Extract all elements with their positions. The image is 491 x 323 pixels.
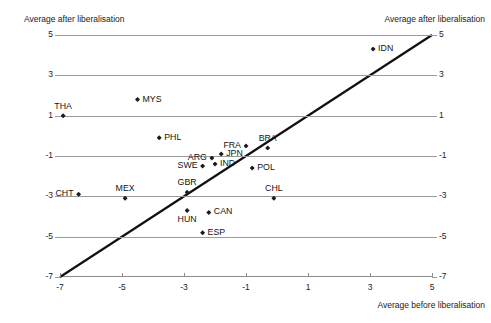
y-axis-tick-label-left: -7 xyxy=(45,272,53,281)
y-axis-tick-label-left: -5 xyxy=(45,232,53,241)
diamond-marker-icon xyxy=(200,164,205,169)
data-point-label: THA xyxy=(54,101,72,111)
y-tick-right xyxy=(432,75,437,76)
data-point-label: IDN xyxy=(378,43,393,53)
plot-area: 553311-1-1-3-3-5-5-7-7-7-5-3-1135IDNMYST… xyxy=(60,35,432,277)
x-axis-tick-label: -3 xyxy=(180,283,188,292)
gridline-y xyxy=(60,116,432,117)
y-tick-right xyxy=(432,237,437,238)
y-axis-tick-label-left: 5 xyxy=(48,30,53,39)
data-point-label: BRA xyxy=(259,133,277,143)
diamond-marker-icon xyxy=(157,135,162,140)
data-point-label: SWE xyxy=(178,160,198,170)
x-tick xyxy=(370,273,371,277)
diamond-marker-icon xyxy=(244,143,249,148)
y-tick-right xyxy=(432,116,437,117)
y-tick-left xyxy=(55,277,60,278)
y-axis-tick-label-left: -1 xyxy=(45,151,53,160)
y-tick-right xyxy=(432,277,437,278)
y-axis-tick-label-right: -7 xyxy=(439,272,447,281)
scatter-chart: Average after liberalisation Average aft… xyxy=(0,0,491,323)
data-point-label: CHL xyxy=(265,183,283,193)
y-axis-tick-label-left: 1 xyxy=(48,111,53,120)
y-axis-title-left: Average after liberalisation xyxy=(24,14,125,24)
y-axis-title-right: Average after liberalisation xyxy=(385,14,486,24)
x-tick xyxy=(60,273,61,277)
data-point-label: IND xyxy=(220,158,235,168)
x-axis-tick-label: 3 xyxy=(368,283,373,292)
diamond-marker-icon xyxy=(135,97,140,102)
gridline-y xyxy=(60,75,432,76)
diamond-marker-icon xyxy=(185,190,190,195)
y-axis-tick-label-left: 3 xyxy=(48,70,53,79)
y-axis-tick-label-right: -1 xyxy=(439,151,447,160)
y-tick-left xyxy=(55,116,60,117)
diamond-marker-icon xyxy=(265,145,270,150)
x-tick xyxy=(184,273,185,277)
y-axis-tick-label-right: 5 xyxy=(439,30,444,39)
y-tick-left xyxy=(55,156,60,157)
y-axis-tick-label-right: -5 xyxy=(439,232,447,241)
gridline-y xyxy=(60,35,432,36)
diamond-marker-icon xyxy=(61,113,66,118)
data-point-label: ESP xyxy=(208,227,226,237)
data-point-label: CAN xyxy=(214,206,233,216)
gridline-y xyxy=(60,156,432,157)
y-axis-tick-label-right: -3 xyxy=(439,191,447,200)
diamond-marker-icon xyxy=(200,230,205,235)
x-axis-tick-label: 1 xyxy=(306,283,311,292)
x-axis-tick-label: -5 xyxy=(118,283,126,292)
data-point-label: GBR xyxy=(178,177,197,187)
x-tick xyxy=(246,273,247,277)
diamond-marker-icon xyxy=(206,210,211,215)
y-axis-tick-label-right: 3 xyxy=(439,70,444,79)
data-point-label: PHL xyxy=(164,132,181,142)
y-axis-tick-label-left: -3 xyxy=(45,191,53,200)
data-point-label: CHT xyxy=(56,188,74,198)
y-tick-right xyxy=(432,35,437,36)
y-tick-right xyxy=(432,196,437,197)
gridline-y xyxy=(60,237,432,238)
x-tick xyxy=(432,273,433,277)
x-tick xyxy=(122,273,123,277)
gridline-y xyxy=(60,196,432,197)
data-point-label: POL xyxy=(257,162,275,172)
x-axis-title: Average before liberalisation xyxy=(377,300,485,310)
y-tick-left xyxy=(55,237,60,238)
y-axis-tick-label-right: 1 xyxy=(439,111,444,120)
x-tick xyxy=(308,273,309,277)
diamond-marker-icon xyxy=(250,166,255,171)
data-point-label: JPN xyxy=(226,148,243,158)
data-point-label: MYS xyxy=(143,94,162,104)
y-tick-left xyxy=(55,75,60,76)
y-tick-right xyxy=(432,156,437,157)
diamond-marker-icon xyxy=(371,47,376,52)
x-axis-tick-label: 5 xyxy=(430,283,435,292)
x-axis-tick-label: -1 xyxy=(242,283,250,292)
diamond-marker-icon xyxy=(213,162,218,167)
data-point-label: HUN xyxy=(178,214,197,224)
data-point-label: MEX xyxy=(116,183,135,193)
y-tick-left xyxy=(55,35,60,36)
diamond-marker-icon xyxy=(185,208,190,213)
x-axis-tick-label: -7 xyxy=(56,283,64,292)
